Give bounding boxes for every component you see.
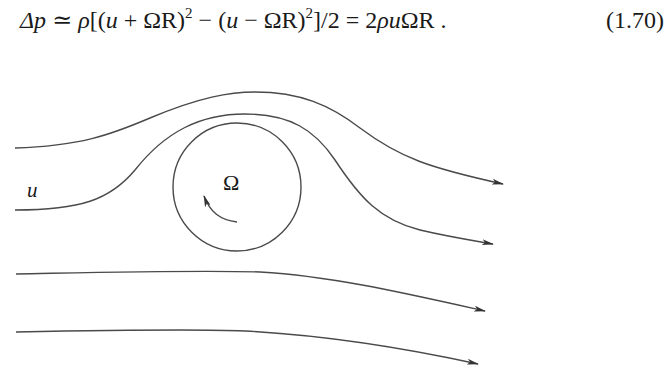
streamline-3: [16, 271, 485, 311]
rotation-arrow-icon: [204, 196, 237, 222]
streamline-2: [15, 114, 493, 244]
streamline-1: [15, 92, 503, 184]
flow-velocity-label: u: [27, 178, 38, 203]
streamline-4: [16, 330, 478, 364]
magnus-effect-figure: [0, 0, 672, 365]
rotation-label: Ω: [223, 170, 239, 196]
